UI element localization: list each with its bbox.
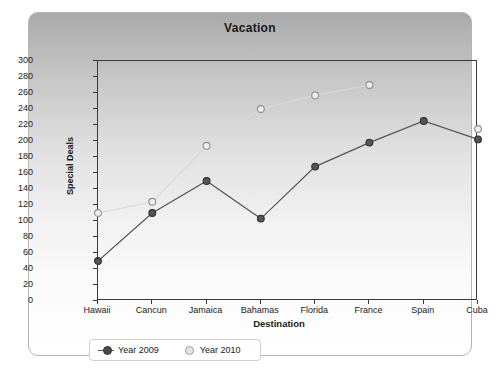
data-point-marker[interactable] <box>366 82 373 89</box>
legend-label-2009: Year 2009 <box>118 345 159 355</box>
y-axis-title: Special Deals <box>65 121 75 211</box>
y-tick-label: 240 <box>0 103 33 113</box>
chart-legend[interactable]: Year 2009 Year 2010 <box>89 339 261 361</box>
y-tick-label: 120 <box>0 199 33 209</box>
y-tick-label: 200 <box>0 135 33 145</box>
y-tick-mark <box>93 124 97 125</box>
y-tick-label: 80 <box>0 231 33 241</box>
x-tick-mark <box>477 300 478 304</box>
y-tick-mark <box>93 156 97 157</box>
y-tick-label: 160 <box>0 167 33 177</box>
y-tick-mark <box>93 188 97 189</box>
x-tick-mark <box>260 300 261 304</box>
y-tick-label: 40 <box>0 263 33 273</box>
y-tick-mark <box>93 92 97 93</box>
x-tick-mark <box>423 300 424 304</box>
data-point-marker[interactable] <box>312 163 319 170</box>
data-point-marker[interactable] <box>366 139 373 146</box>
x-tick-label: Florida <box>300 305 328 315</box>
data-point-marker[interactable] <box>475 136 482 143</box>
x-tick-label: Jamaica <box>189 305 223 315</box>
x-tick-mark <box>97 300 98 304</box>
y-tick-mark <box>93 172 97 173</box>
data-point-marker[interactable] <box>95 258 102 265</box>
data-point-marker[interactable] <box>257 106 264 113</box>
chart-title: Vacation <box>29 21 471 35</box>
x-tick-label: France <box>354 305 382 315</box>
y-tick-label: 180 <box>0 151 33 161</box>
data-point-marker[interactable] <box>95 210 102 217</box>
x-tick-label: Bahamas <box>241 305 279 315</box>
y-tick-mark <box>93 284 97 285</box>
legend-item-year-2009[interactable]: Year 2009 <box>98 345 159 355</box>
data-point-marker[interactable] <box>420 118 427 125</box>
y-tick-mark <box>93 60 97 61</box>
series-layer <box>98 61 478 301</box>
data-point-marker[interactable] <box>257 215 264 222</box>
series-line <box>98 121 478 261</box>
y-tick-label: 0 <box>0 295 33 305</box>
x-axis-title: Destination <box>29 318 500 329</box>
data-point-marker[interactable] <box>203 142 210 149</box>
data-point-marker[interactable] <box>149 198 156 205</box>
y-tick-mark <box>93 108 97 109</box>
x-tick-label: Hawaii <box>83 305 110 315</box>
y-tick-mark <box>93 252 97 253</box>
legend-marker-2010 <box>185 346 194 355</box>
legend-label-2010: Year 2010 <box>200 345 241 355</box>
data-point-marker[interactable] <box>312 92 319 99</box>
legend-item-year-2010[interactable]: Year 2010 <box>185 345 241 355</box>
data-point-marker[interactable] <box>203 178 210 185</box>
data-point-marker[interactable] <box>475 126 482 133</box>
series-line <box>98 85 369 213</box>
y-tick-label: 220 <box>0 119 33 129</box>
x-tick-label: Spain <box>411 305 434 315</box>
data-point-marker[interactable] <box>149 210 156 217</box>
y-tick-mark <box>93 140 97 141</box>
x-tick-mark <box>206 300 207 304</box>
y-tick-mark <box>93 76 97 77</box>
y-tick-mark <box>93 204 97 205</box>
legend-marker-2009 <box>103 346 112 355</box>
y-tick-mark <box>93 268 97 269</box>
x-tick-mark <box>314 300 315 304</box>
x-tick-mark <box>368 300 369 304</box>
y-tick-label: 300 <box>0 55 33 65</box>
x-tick-label: Cuba <box>466 305 488 315</box>
y-tick-label: 100 <box>0 215 33 225</box>
y-tick-label: 260 <box>0 87 33 97</box>
y-tick-label: 20 <box>0 279 33 289</box>
x-tick-mark <box>151 300 152 304</box>
y-tick-mark <box>93 220 97 221</box>
x-tick-label: Cancun <box>136 305 167 315</box>
y-tick-label: 140 <box>0 183 33 193</box>
plot-area <box>97 60 477 300</box>
y-tick-mark <box>93 236 97 237</box>
y-tick-label: 280 <box>0 71 33 81</box>
chart-panel: Vacation 0204060801001201401601802002202… <box>28 12 472 356</box>
y-tick-label: 60 <box>0 247 33 257</box>
